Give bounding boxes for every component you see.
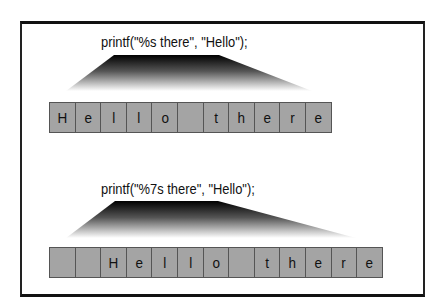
char-buffer-2: H e l l o t h e r e xyxy=(49,247,383,278)
char-cell: l xyxy=(177,247,204,278)
char-cell: e xyxy=(305,102,332,133)
char-cell: H xyxy=(49,102,76,133)
char-cell: r xyxy=(279,102,306,133)
bracket-shape-2 xyxy=(66,201,356,238)
char-cell: t xyxy=(254,247,281,278)
char-cell xyxy=(177,102,204,133)
bracket-shape-1 xyxy=(66,55,312,91)
char-buffer-1: H e l l o t h e r e xyxy=(49,102,332,133)
char-cell: H xyxy=(100,247,127,278)
char-cell: e xyxy=(75,102,102,133)
code-line-1: printf("%s there", "Hello"); xyxy=(101,33,248,50)
char-cell: h xyxy=(228,102,255,133)
char-cell: l xyxy=(126,102,153,133)
char-cell: o xyxy=(151,102,178,133)
char-cell xyxy=(75,247,102,278)
char-cell xyxy=(49,247,76,278)
char-cell: l xyxy=(100,102,127,133)
char-cell: r xyxy=(331,247,358,278)
char-cell: e xyxy=(356,247,383,278)
char-cell xyxy=(228,247,255,278)
char-cell: h xyxy=(279,247,306,278)
char-cell: e xyxy=(254,102,281,133)
char-cell: e xyxy=(126,247,153,278)
char-cell: e xyxy=(305,247,332,278)
char-cell: t xyxy=(203,102,230,133)
char-cell: l xyxy=(151,247,178,278)
code-line-2: printf("%7s there", "Hello"); xyxy=(101,180,255,197)
char-cell: o xyxy=(203,247,230,278)
